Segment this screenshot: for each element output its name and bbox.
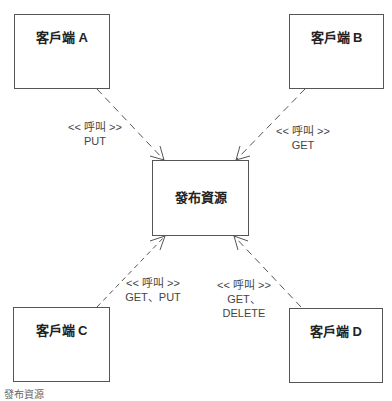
client-d-box[interactable]: 客戶端 D: [289, 308, 383, 383]
client-b-title: 客戶端 B: [290, 27, 383, 46]
edge-label-b: << 呼叫 >> GET: [273, 124, 333, 152]
method-label: GET: [273, 138, 333, 152]
edge-label-a: << 呼叫 >> PUT: [65, 120, 125, 148]
stereotype-label: << 呼叫 >>: [65, 120, 125, 134]
client-a-box[interactable]: 客戶端 A: [14, 14, 110, 89]
client-d-title: 客戶端 D: [290, 321, 382, 340]
method-label: GET、: [214, 292, 274, 306]
publish-resource-title: 發布資源: [153, 187, 248, 206]
client-c-title: 客戶端 C: [14, 320, 109, 339]
stereotype-label: << 呼叫 >>: [214, 278, 274, 292]
client-a-title: 客戶端 A: [15, 27, 109, 46]
edge-label-d: << 呼叫 >> GET、 DELETE: [214, 278, 274, 320]
stereotype-label: << 呼叫 >>: [273, 124, 333, 138]
method-label: GET、PUT: [118, 290, 188, 304]
stereotype-label: << 呼叫 >>: [118, 276, 188, 290]
method-label: PUT: [65, 134, 125, 148]
publish-resource-box[interactable]: 發布資源: [152, 160, 249, 236]
method-label: DELETE: [214, 306, 274, 320]
footer-caption: 發布資源: [4, 386, 44, 401]
edge-label-c: << 呼叫 >> GET、PUT: [118, 276, 188, 304]
client-c-box[interactable]: 客戶端 C: [13, 307, 110, 382]
client-b-box[interactable]: 客戶端 B: [289, 14, 384, 89]
